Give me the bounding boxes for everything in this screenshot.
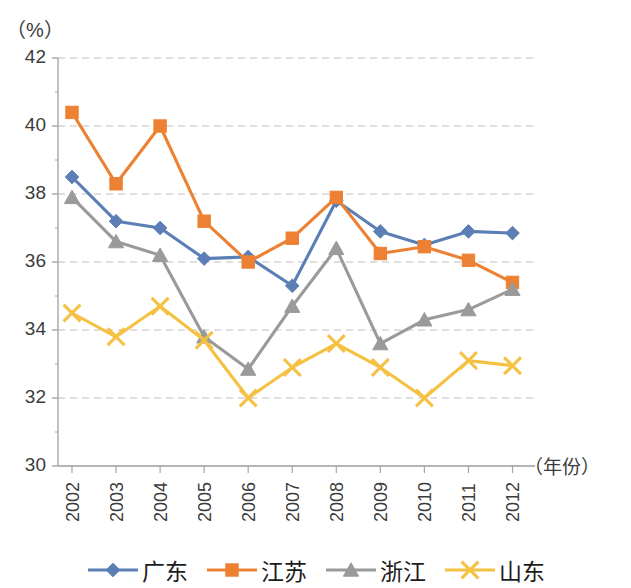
data-point xyxy=(373,336,388,349)
y-tick-label: 42 xyxy=(4,46,46,68)
x-tick-label: 2012 xyxy=(503,482,524,522)
legend-marker-square-icon xyxy=(206,559,258,581)
y-tick-label: 38 xyxy=(4,182,46,204)
legend-label: 广东 xyxy=(142,553,188,587)
data-point xyxy=(462,254,474,266)
data-point xyxy=(110,178,122,190)
chart-canvas xyxy=(0,0,631,588)
x-tick-label: 2008 xyxy=(327,482,348,522)
y-tick-label: 32 xyxy=(4,386,46,408)
data-point xyxy=(108,328,125,345)
data-point xyxy=(461,302,476,315)
data-point xyxy=(418,241,430,253)
data-point xyxy=(372,359,389,376)
y-tick-label: 34 xyxy=(4,318,46,340)
data-point xyxy=(328,335,345,352)
series-line xyxy=(72,112,513,282)
y-tick-label: 30 xyxy=(4,454,46,476)
series-layer xyxy=(64,106,521,406)
legend-item-1[interactable]: 广东 xyxy=(87,553,188,587)
x-tick-label: 2009 xyxy=(371,482,392,522)
data-point xyxy=(198,215,210,227)
series-1 xyxy=(65,170,519,292)
data-point xyxy=(286,232,298,244)
legend-item-4[interactable]: 山东 xyxy=(444,553,545,587)
legend-marker-diamond-icon xyxy=(87,559,139,581)
data-point xyxy=(152,298,169,315)
data-point xyxy=(64,305,81,322)
x-tick-label: 2011 xyxy=(459,483,480,522)
x-tick-label: 2010 xyxy=(415,482,436,522)
legend-label: 浙江 xyxy=(380,553,426,587)
data-point xyxy=(154,120,166,132)
series-line xyxy=(72,306,513,398)
x-tick-label: 2007 xyxy=(283,482,304,522)
legend-marker-glyph xyxy=(106,563,120,577)
y-tick-label: 36 xyxy=(4,250,46,272)
series-2 xyxy=(66,106,519,288)
legend-item-2[interactable]: 江苏 xyxy=(206,553,307,587)
legend-label: 江苏 xyxy=(261,553,307,587)
line-chart: （%） （年份） 30323436384042 2002200320042005… xyxy=(0,0,631,588)
chart-legend: 广东江苏浙江山东 xyxy=(0,552,631,588)
data-point xyxy=(330,191,342,203)
data-point xyxy=(329,241,344,254)
legend-marker-glyph xyxy=(225,564,237,576)
data-point xyxy=(506,226,520,240)
x-tick-label: 2006 xyxy=(239,482,260,522)
legend-marker-triangle-icon xyxy=(325,559,377,581)
x-tick-label: 2003 xyxy=(107,482,128,522)
data-point xyxy=(374,247,386,259)
series-line xyxy=(72,177,513,286)
y-tick-label: 40 xyxy=(4,114,46,136)
x-tick-label: 2005 xyxy=(195,482,216,522)
legend-label: 山东 xyxy=(499,553,545,587)
legend-marker-cross-icon xyxy=(444,559,496,581)
legend-item-3[interactable]: 浙江 xyxy=(325,553,426,587)
data-point xyxy=(462,225,476,239)
x-tick-label: 2004 xyxy=(151,482,172,522)
data-point xyxy=(66,106,78,118)
data-point xyxy=(242,256,254,268)
data-point xyxy=(284,359,301,376)
x-tick-marks xyxy=(72,466,512,473)
x-tick-label: 2002 xyxy=(63,482,84,522)
data-point xyxy=(64,190,79,203)
